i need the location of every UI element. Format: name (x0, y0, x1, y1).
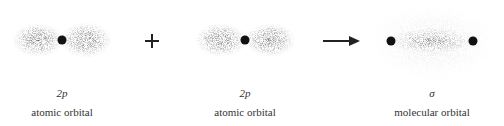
middle-orbital-caption: atomic orbital (214, 106, 275, 118)
right-orbital-caption: molecular orbital (394, 106, 469, 118)
middle-orbital-symbol: 2p (240, 87, 251, 99)
orbital-overlap-diagram: 2p atomic orbital 2p atomic orbital σ mo… (0, 0, 504, 126)
left-orbital-symbol: 2p (57, 87, 68, 99)
right-nucleus-dot-b (469, 37, 478, 46)
arrow-right-icon (323, 36, 360, 46)
right-orbital-symbol: σ (429, 87, 434, 99)
plus-icon (145, 34, 159, 48)
middle-nucleus-dot (241, 36, 250, 45)
left-nucleus-dot (58, 36, 67, 45)
left-orbital-caption: atomic orbital (31, 106, 92, 118)
right-nucleus-dot-a (387, 37, 396, 46)
